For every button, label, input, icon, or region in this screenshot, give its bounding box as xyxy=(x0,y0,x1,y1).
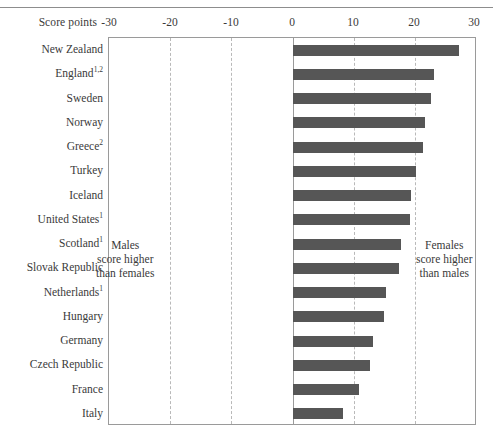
annotation-line: than males xyxy=(416,266,473,280)
category-footnote-marker: 1 xyxy=(99,211,103,220)
bar xyxy=(293,360,370,371)
x-axis-title: Score points xyxy=(39,16,97,28)
x-tick-label-minus10: -10 xyxy=(223,16,238,28)
bar xyxy=(293,311,384,322)
bars-layer xyxy=(109,38,475,424)
category-label: Hungary xyxy=(0,310,103,322)
category-label: United States1 xyxy=(0,213,103,225)
bar xyxy=(293,263,399,274)
category-label: Greece2 xyxy=(0,140,103,152)
bar xyxy=(293,117,425,128)
x-tick-label-20: 20 xyxy=(408,16,420,28)
category-label: Italy xyxy=(0,407,103,419)
category-label: Turkey xyxy=(0,164,103,176)
bar xyxy=(293,287,386,298)
category-label: Sweden xyxy=(0,92,103,104)
bar xyxy=(293,93,431,104)
x-tick-label-30: 30 xyxy=(468,16,480,28)
bar xyxy=(293,214,410,225)
bar xyxy=(293,45,459,56)
bar xyxy=(293,190,411,201)
category-label: Germany xyxy=(0,334,103,346)
x-tick-label-0: 0 xyxy=(289,16,295,28)
bar xyxy=(293,69,434,80)
category-label: Czech Republic xyxy=(0,358,103,370)
y-axis-category-labels: New ZealandEngland1,2SwedenNorwayGreece2… xyxy=(0,37,103,425)
category-footnote-marker: 1,2 xyxy=(94,66,103,75)
x-axis-header: Score points -30 -20 -10 0 10 20 30 xyxy=(0,16,493,32)
chart-plot-area xyxy=(108,37,476,425)
annotation-line: Females xyxy=(416,238,473,252)
x-tick-label-10: 10 xyxy=(347,16,359,28)
category-label: New Zealand xyxy=(0,43,103,55)
category-label: Netherlands1 xyxy=(0,286,103,298)
category-label: Iceland xyxy=(0,189,103,201)
bar xyxy=(293,239,401,250)
top-divider-rule xyxy=(0,7,493,8)
annotation-males-score-higher: Malesscore higherthan females xyxy=(96,238,154,280)
bar xyxy=(293,142,423,153)
category-label: Scotland1 xyxy=(0,237,103,249)
category-footnote-marker: 1 xyxy=(99,284,103,293)
annotation-line: score higher xyxy=(96,252,154,266)
annotation-line: than females xyxy=(96,266,154,280)
annotation-line: score higher xyxy=(416,252,473,266)
category-label: France xyxy=(0,383,103,395)
bar xyxy=(293,336,373,347)
x-tick-label-minus30: -30 xyxy=(101,16,116,28)
category-label: England1,2 xyxy=(0,67,103,79)
bar xyxy=(293,166,416,177)
x-tick-label-minus20: -20 xyxy=(162,16,177,28)
category-label: Norway xyxy=(0,116,103,128)
bar xyxy=(293,384,359,395)
bar xyxy=(293,408,343,419)
annotation-females-score-higher: Femalesscore higherthan males xyxy=(416,238,473,280)
category-footnote-marker: 2 xyxy=(99,138,103,147)
category-label: Slovak Republic xyxy=(0,261,103,273)
annotation-line: Males xyxy=(96,238,154,252)
